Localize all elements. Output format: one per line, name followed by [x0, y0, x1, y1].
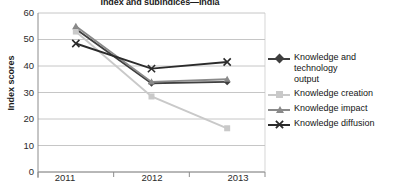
legend-marker-diamond-icon: [268, 53, 290, 64]
legend-label-line1: Knowledge and technology: [294, 52, 356, 73]
legend-label: Knowledge creation: [294, 88, 373, 99]
legend-marker-x-icon: [268, 119, 290, 130]
series-line-2: [76, 26, 227, 82]
data-point: [224, 125, 230, 131]
legend-item-knowledge-and-technology-output[interactable]: Knowledge and technologyoutput: [268, 52, 402, 85]
chart-container: Index and subindices—India Index scores …: [0, 0, 402, 190]
legend-label: Knowledge diffusion: [294, 118, 374, 129]
chart-legend: Knowledge and technologyoutput Knowledge…: [268, 52, 402, 133]
legend-marker-triangle-icon: [268, 104, 290, 115]
data-point: [73, 29, 79, 35]
data-point: [149, 93, 155, 99]
legend-label-line2: output: [294, 74, 319, 84]
legend-item-knowledge-creation[interactable]: Knowledge creation: [268, 88, 402, 100]
x-tick-2011: 2011: [45, 172, 85, 183]
legend-item-knowledge-impact[interactable]: Knowledge impact: [268, 103, 402, 115]
x-tick-2013: 2013: [218, 172, 258, 183]
series-line-0: [76, 29, 227, 83]
x-tick-2012: 2012: [132, 172, 172, 183]
series-line-3: [76, 43, 227, 68]
legend-item-knowledge-diffusion[interactable]: Knowledge diffusion: [268, 118, 402, 130]
series-lines: [72, 23, 231, 132]
gridlines: [38, 13, 265, 172]
legend-label: Knowledge and technologyoutput: [294, 52, 402, 85]
data-point: [72, 23, 79, 29]
legend-label: Knowledge impact: [294, 103, 368, 114]
legend-marker-square-icon: [268, 89, 290, 100]
